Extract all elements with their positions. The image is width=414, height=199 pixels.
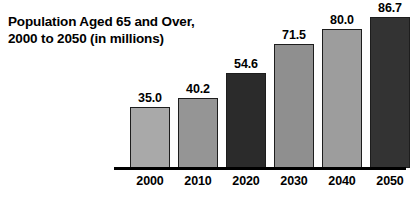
bar-2000[interactable] <box>130 107 170 168</box>
bar-slot-2010: 40.2 <box>178 8 218 168</box>
bar-value-2030: 71.5 <box>265 28 323 42</box>
bar-2040[interactable] <box>322 29 362 168</box>
bar-value-2040: 80.0 <box>313 13 371 27</box>
bar-2020[interactable] <box>226 73 266 168</box>
bar-slot-2030: 71.5 <box>274 8 314 168</box>
bar-slot-2020: 54.6 <box>226 8 266 168</box>
bar-2010[interactable] <box>178 98 218 168</box>
bar-2030[interactable] <box>274 44 314 168</box>
bar-slot-2040: 80.0 <box>322 8 362 168</box>
plot-area: 35.0 40.2 54.6 71.5 80.0 86.7 <box>118 8 406 168</box>
bar-2050[interactable] <box>370 17 410 168</box>
bar-value-2050: 86.7 <box>361 1 414 15</box>
x-axis-label-2050: 2050 <box>361 174 414 188</box>
bar-slot-2050: 86.7 <box>370 8 410 168</box>
x-axis-labels: 2000 2010 2020 2030 2040 2050 <box>118 174 406 194</box>
bar-slot-2000: 35.0 <box>130 8 170 168</box>
x-axis-line <box>114 167 406 170</box>
bar-value-2020: 54.6 <box>217 57 275 71</box>
bar-value-2010: 40.2 <box>169 82 227 96</box>
